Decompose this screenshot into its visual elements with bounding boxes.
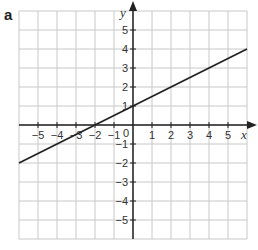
y-tick-label: 4 bbox=[122, 43, 128, 55]
x-tick-label: 3 bbox=[187, 129, 193, 141]
y-tick-label: −3 bbox=[115, 176, 128, 188]
x-tick-label: 4 bbox=[206, 129, 212, 141]
x-tick-label: 5 bbox=[225, 129, 231, 141]
origin-label: 0 bbox=[123, 127, 129, 139]
x-tick-label: 1 bbox=[149, 129, 155, 141]
y-tick-label: −1 bbox=[115, 138, 128, 150]
y-tick-label: 3 bbox=[122, 62, 128, 74]
y-axis-label: y bbox=[118, 5, 126, 20]
x-tick-label: −2 bbox=[89, 129, 102, 141]
x-axis-label: x bbox=[240, 127, 247, 142]
y-tick-label: −5 bbox=[115, 214, 128, 226]
y-axis-arrow-icon bbox=[129, 1, 137, 11]
tick-labels: −5−4−3−2−112345−5−4−3−2−1123450xy bbox=[32, 5, 247, 226]
x-tick-label: −5 bbox=[32, 129, 45, 141]
axes bbox=[19, 1, 257, 239]
x-tick-label: −4 bbox=[51, 129, 64, 141]
x-tick-label: 2 bbox=[168, 129, 174, 141]
y-tick-label: 2 bbox=[122, 81, 128, 93]
y-tick-label: −2 bbox=[115, 157, 128, 169]
x-axis-arrow-icon bbox=[247, 121, 257, 129]
coordinate-grid-plot: −5−4−3−2−112345−5−4−3−2−1123450xy bbox=[0, 0, 258, 250]
y-tick-label: −4 bbox=[115, 195, 128, 207]
y-tick-label: 5 bbox=[122, 24, 128, 36]
